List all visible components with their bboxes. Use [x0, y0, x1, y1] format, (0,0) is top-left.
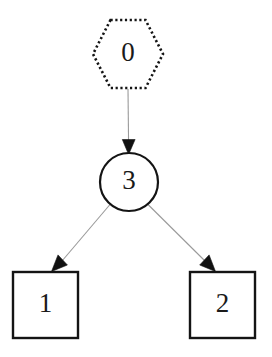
diagram-canvas: 0 3 1 2: [0, 0, 272, 357]
edge-0-to-3-line: [128, 89, 129, 146]
node-1[interactable]: 1: [13, 272, 78, 338]
edge-0-to-3[interactable]: [122, 89, 135, 155]
node-2[interactable]: 2: [190, 272, 255, 338]
node-1-label: 1: [39, 288, 53, 318]
edge-3-to-2[interactable]: [148, 205, 216, 272]
edge-3-to-2-line: [148, 205, 205, 262]
node-0[interactable]: 0: [93, 20, 163, 88]
node-2-label: 2: [216, 288, 230, 318]
node-3[interactable]: 3: [100, 153, 158, 211]
node-3-label: 3: [122, 165, 136, 195]
edge-3-to-1[interactable]: [52, 205, 111, 272]
node-group: 0 3 1 2: [13, 20, 255, 338]
node-0-label: 0: [121, 37, 135, 67]
edge-3-to-1-line: [62, 205, 110, 262]
graph-svg: 0 3 1 2: [0, 0, 272, 357]
